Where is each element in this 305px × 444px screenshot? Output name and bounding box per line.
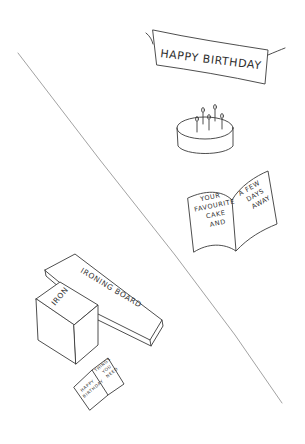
banner-text: HAPPY BIRTHDAY bbox=[160, 47, 263, 72]
sketch-canvas: HAPPY BIRTHDAY YOUR FAVOURITE CAKE AND bbox=[0, 0, 305, 444]
small-card: HAPPY BIRTHDAY THINGS YOU NEED bbox=[74, 356, 124, 410]
birthday-banner: HAPPY BIRTHDAY bbox=[146, 30, 285, 84]
birthday-cake bbox=[177, 105, 233, 154]
greeting-card: YOUR FAVOURITE CAKE AND A FEW DAYS AWAY bbox=[188, 171, 277, 252]
iron-box: IRON bbox=[36, 282, 98, 364]
